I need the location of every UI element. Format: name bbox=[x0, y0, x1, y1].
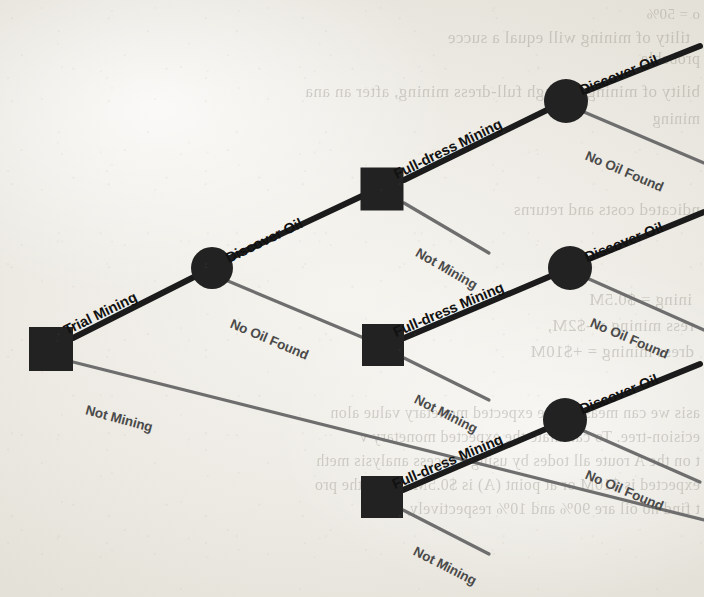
tree-edge-e-dA-not bbox=[404, 203, 489, 253]
tree-edge-e-dC-full bbox=[403, 429, 546, 490]
tree-edge-e-dB-full bbox=[404, 276, 551, 338]
decision-tree-figure: o = 50%tility of mining will equal a suc… bbox=[0, 0, 704, 597]
tree-edge-e-dA-full bbox=[404, 110, 547, 180]
